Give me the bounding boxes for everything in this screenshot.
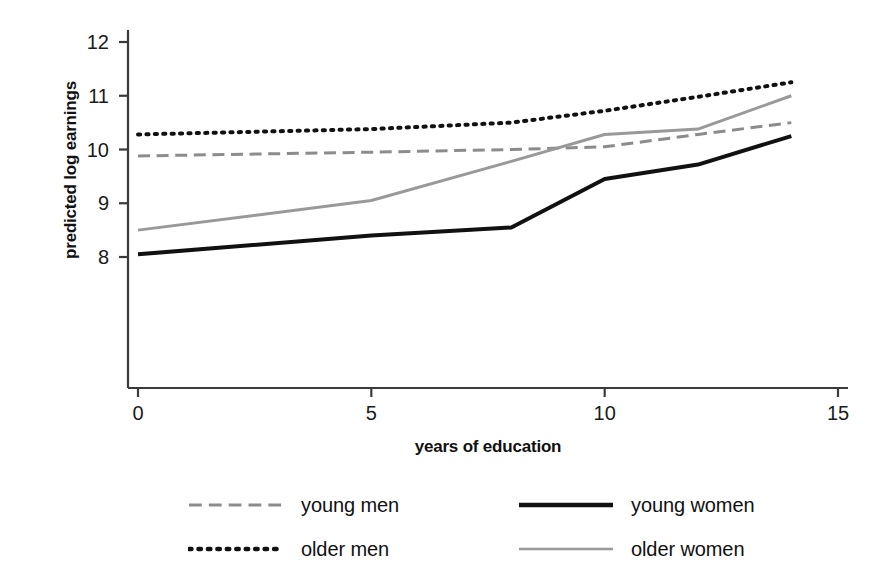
x-axis-ticks: [138, 388, 838, 397]
chart-legend: young menyoung womenolder menolder women: [188, 488, 808, 574]
series-line-older-men: [138, 82, 791, 134]
axis-lines: [128, 30, 848, 388]
legend-swatch-solid-icon: [518, 542, 614, 556]
legend-label: older women: [631, 538, 744, 561]
legend-swatch-solid-icon: [518, 498, 614, 512]
x-tick-label: 0: [118, 403, 158, 423]
legend-item-older-men[interactable]: older men: [188, 532, 389, 566]
legend-swatch-dashed-icon: [188, 498, 284, 512]
legend-item-young-women[interactable]: young women: [518, 488, 754, 522]
x-tick-label: 15: [818, 403, 858, 423]
x-tick-label: 5: [351, 403, 391, 423]
x-axis-title: years of education: [128, 437, 848, 457]
legend-label: older men: [301, 538, 389, 561]
legend-label: young women: [631, 494, 754, 517]
legend-item-older-women[interactable]: older women: [518, 532, 744, 566]
series-line-young-men: [138, 123, 791, 156]
legend-label: young men: [301, 494, 399, 517]
plot-area: 89101112051015: [0, 0, 893, 470]
legend-swatch-dotted-icon: [188, 542, 284, 556]
chart-series-group: [138, 82, 791, 254]
line-chart: [0, 0, 893, 470]
legend-item-young-men[interactable]: young men: [188, 488, 399, 522]
y-axis-ticks: [119, 42, 128, 257]
series-line-older-women: [138, 96, 791, 230]
x-tick-label: 10: [585, 403, 625, 423]
chart-page: 89101112051015 predicted log earnings ye…: [0, 0, 893, 583]
y-axis-title: predicted log earnings: [58, 20, 84, 320]
